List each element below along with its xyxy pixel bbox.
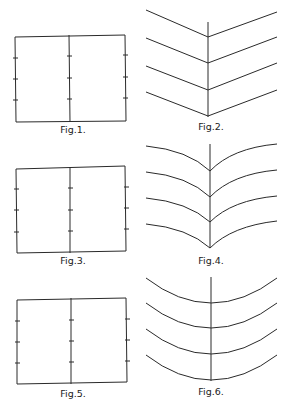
fig2-drawing: Fig.2.: [146, 10, 277, 132]
fig6-label: Fig.6.: [198, 386, 224, 397]
fig4-label: Fig.4.: [198, 255, 224, 266]
fig2-chevron: [146, 37, 277, 63]
fig2-chevron: [146, 63, 277, 90]
fig5-label: Fig.5.: [60, 388, 86, 399]
fig5-ticks: [15, 319, 130, 363]
fig2-label: Fig.2.: [198, 121, 224, 132]
fig4-curve: [146, 221, 277, 248]
fig4-curve: [146, 144, 277, 171]
fig2-chevron: [146, 90, 277, 116]
fig3-ticks: [14, 187, 129, 232]
fig1-drawing: Fig.1.: [13, 35, 128, 135]
fig4-curve: [146, 196, 277, 222]
fig1-ticks: [13, 55, 128, 100]
figure-sheet: Fig.1. Fig.2. Fig.3. Fig.: [0, 0, 292, 415]
fig4-drawing: Fig.4.: [146, 144, 277, 266]
fig4-curve: [146, 170, 277, 197]
fig6-drawing: Fig.6.: [146, 277, 277, 397]
fig1-label: Fig.1.: [60, 124, 86, 135]
fig3-label: Fig.3.: [60, 255, 86, 266]
fig5-drawing: Fig.5.: [15, 298, 130, 399]
fig2-chevron: [146, 10, 277, 37]
fig3-drawing: Fig.3.: [14, 166, 129, 266]
